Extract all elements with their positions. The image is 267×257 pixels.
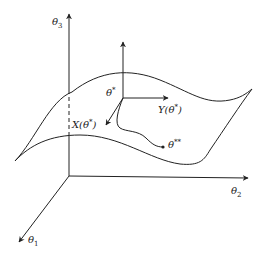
theta-double-star-point bbox=[161, 145, 164, 148]
theta3-subscript: 3 bbox=[58, 22, 62, 30]
y-vector-close: ) bbox=[178, 104, 182, 115]
theta1-axis bbox=[19, 176, 69, 242]
x-vector-label: X(θ*) bbox=[72, 119, 96, 130]
x-vector-text: X(θ bbox=[72, 119, 89, 130]
geodesic-curve bbox=[117, 98, 163, 147]
theta1-subscript: 1 bbox=[34, 240, 38, 248]
theta3-axis-label: θ3 bbox=[52, 17, 63, 30]
theta2-axis bbox=[69, 176, 248, 178]
theta-double-star-superscript: ** bbox=[174, 138, 181, 146]
theta-star-label: θ* bbox=[106, 87, 116, 98]
theta1-axis-label: θ1 bbox=[28, 235, 39, 248]
theta2-subscript: 2 bbox=[237, 191, 241, 199]
theta-double-star-label: θ** bbox=[168, 139, 181, 150]
manifold-diagram bbox=[0, 0, 267, 257]
y-vector-text: Y(θ bbox=[158, 104, 175, 115]
theta-star-superscript: * bbox=[112, 86, 116, 94]
surface-bottom-edge bbox=[15, 89, 252, 164]
x-vector-close: ) bbox=[93, 119, 97, 130]
theta2-axis-label: θ2 bbox=[231, 186, 242, 199]
x-vector-arrow bbox=[106, 98, 123, 125]
y-vector-label: Y(θ*) bbox=[158, 104, 182, 115]
